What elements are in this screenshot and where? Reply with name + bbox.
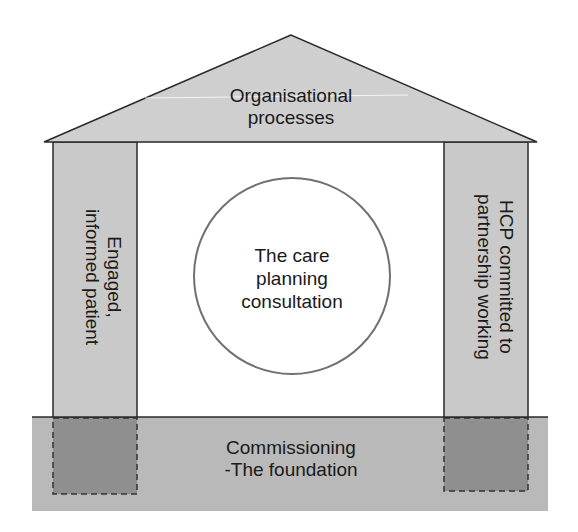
right-pillar-label: HCP committed to partnership working [457,137,517,417]
roof-label: Organisational processes [191,85,391,129]
left-pillar-label-line2: informed patient [81,137,103,417]
right-pillar-label-line1: HCP committed to [495,137,517,417]
center-label-line3: consultation [192,290,392,313]
foundation-label: Commissioning -The foundation [191,437,391,481]
right-footing [444,418,528,491]
center-label-line1: The care [192,244,392,267]
foundation-label-line1: Commissioning [191,437,391,459]
left-pillar-label: Engaged, informed patient [65,137,125,417]
left-footing [53,418,137,494]
left-pillar-label-line1: Engaged, [103,137,125,417]
foundation-label-line2: -The foundation [191,459,391,481]
center-label: The care planning consultation [192,244,392,313]
center-label-line2: planning [192,267,392,290]
roof-label-line2: processes [191,107,391,129]
roof-label-line1: Organisational [191,85,391,107]
right-pillar-label-line2: partnership working [473,137,495,417]
